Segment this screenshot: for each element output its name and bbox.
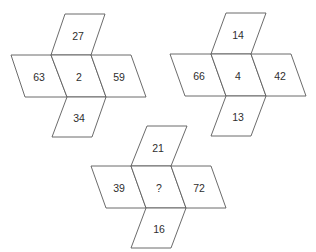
value-top: 21 [152,142,164,154]
figure-3: 21 39 ? 72 16 [91,126,226,248]
value-bottom: 16 [153,223,165,235]
value-left: 63 [33,71,45,83]
value-top: 27 [72,30,84,42]
value-right: 72 [193,182,205,194]
value-center-unknown: ? [156,182,162,194]
value-left: 66 [193,70,205,82]
value-bottom: 13 [232,111,244,123]
value-right: 42 [274,70,286,82]
value-bottom: 34 [73,112,85,124]
value-left: 39 [113,182,125,194]
figure-1: 27 63 2 59 34 [11,14,146,137]
puzzle-diagram: 27 63 2 59 34 14 66 4 42 13 21 39 ? 72 1… [0,0,316,252]
value-top: 14 [232,29,244,41]
figure-2: 14 66 4 42 13 [170,13,306,136]
value-center: 4 [235,70,241,82]
value-right: 59 [113,71,125,83]
value-center: 2 [76,71,82,83]
